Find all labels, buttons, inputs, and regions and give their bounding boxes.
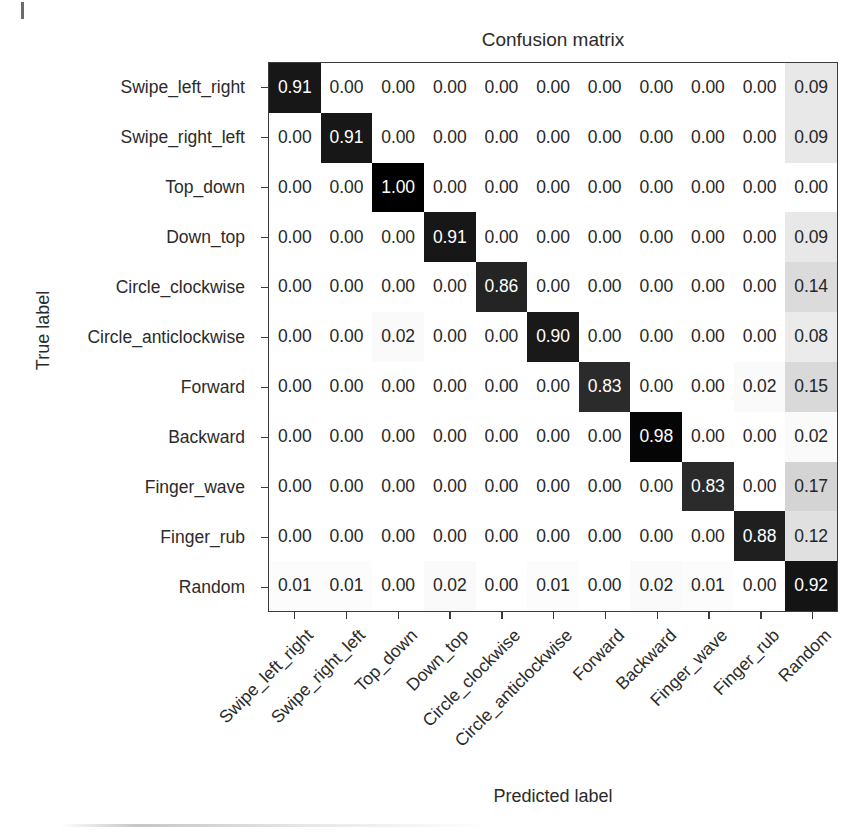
x-tick-mark bbox=[760, 612, 761, 619]
matrix-cell-value: 0.00 bbox=[536, 528, 570, 546]
matrix-cell-value: 0.17 bbox=[794, 478, 828, 496]
matrix-cell-value: 0.00 bbox=[588, 478, 622, 496]
matrix-cell: 0.00 bbox=[476, 511, 528, 561]
matrix-cell: 0.14 bbox=[785, 262, 837, 312]
matrix-cell-value: 0.00 bbox=[588, 428, 622, 446]
matrix-cell: 0.00 bbox=[269, 412, 321, 462]
matrix-cell: 0.00 bbox=[372, 412, 424, 462]
matrix-cell-value: 0.00 bbox=[485, 79, 519, 97]
matrix-cell: 0.00 bbox=[682, 113, 734, 163]
matrix-cell: 0.17 bbox=[785, 462, 837, 512]
matrix-cell: 0.83 bbox=[682, 462, 734, 512]
matrix-cell-value: 0.00 bbox=[330, 378, 364, 396]
matrix-cell: 0.00 bbox=[424, 312, 476, 362]
matrix-cell: 0.00 bbox=[579, 312, 631, 362]
matrix-cell-value: 0.83 bbox=[588, 378, 622, 396]
matrix-cell: 0.02 bbox=[630, 561, 682, 611]
matrix-cell-value: 0.00 bbox=[485, 528, 519, 546]
scan-artifact-smudge bbox=[60, 824, 490, 827]
matrix-cell: 0.91 bbox=[269, 63, 321, 113]
matrix-cell: 0.00 bbox=[269, 362, 321, 412]
matrix-cell-value: 0.00 bbox=[691, 378, 725, 396]
matrix-cell-value: 0.00 bbox=[691, 528, 725, 546]
matrix-cell: 0.00 bbox=[527, 511, 579, 561]
matrix-cell: 0.00 bbox=[682, 262, 734, 312]
y-tick-label: Random bbox=[0, 562, 258, 612]
matrix-cell-value: 0.00 bbox=[485, 129, 519, 147]
matrix-cell-value: 0.15 bbox=[794, 378, 828, 396]
matrix-cell-value: 0.86 bbox=[485, 278, 519, 296]
matrix-cell-value: 1.00 bbox=[381, 179, 415, 197]
matrix-cell: 0.88 bbox=[734, 511, 786, 561]
matrix-plot-area: 0.910.000.000.000.000.000.000.000.000.00… bbox=[268, 62, 838, 612]
matrix-cell: 0.00 bbox=[682, 212, 734, 262]
matrix-cell-value: 0.00 bbox=[536, 79, 570, 97]
matrix-cell-value: 0.00 bbox=[330, 428, 364, 446]
matrix-cell: 0.00 bbox=[734, 63, 786, 113]
y-tick-mark bbox=[261, 387, 268, 388]
matrix-cell: 0.00 bbox=[476, 312, 528, 362]
y-tick-mark bbox=[261, 437, 268, 438]
matrix-cell: 0.02 bbox=[785, 412, 837, 462]
y-tick-mark bbox=[261, 337, 268, 338]
matrix-cell-value: 0.00 bbox=[743, 79, 777, 97]
x-tick-mark bbox=[708, 612, 709, 619]
matrix-cell-value: 0.00 bbox=[743, 577, 777, 595]
matrix-cell-value: 0.00 bbox=[485, 328, 519, 346]
matrix-cell-value: 0.00 bbox=[691, 328, 725, 346]
matrix-cell: 0.00 bbox=[682, 63, 734, 113]
matrix-cell: 0.02 bbox=[734, 362, 786, 412]
matrix-cell-value: 0.00 bbox=[743, 229, 777, 247]
matrix-cell: 0.00 bbox=[734, 412, 786, 462]
matrix-cell: 0.00 bbox=[734, 462, 786, 512]
matrix-cell-value: 0.00 bbox=[381, 79, 415, 97]
matrix-cell: 0.00 bbox=[682, 362, 734, 412]
matrix-cell-value: 0.02 bbox=[743, 378, 777, 396]
matrix-cell: 0.98 bbox=[630, 412, 682, 462]
matrix-cell-value: 0.00 bbox=[639, 378, 673, 396]
matrix-cell-value: 0.00 bbox=[743, 278, 777, 296]
matrix-cell: 0.00 bbox=[476, 462, 528, 512]
matrix-cell-value: 0.00 bbox=[433, 129, 467, 147]
matrix-cell-value: 0.00 bbox=[278, 378, 312, 396]
matrix-cell: 0.00 bbox=[527, 362, 579, 412]
matrix-cell-value: 0.00 bbox=[381, 528, 415, 546]
scan-artifact-mark bbox=[21, 2, 24, 19]
matrix-cell-value: 0.00 bbox=[691, 179, 725, 197]
matrix-cell-value: 0.92 bbox=[794, 577, 828, 595]
matrix-cell-value: 0.00 bbox=[433, 278, 467, 296]
matrix-cell: 0.00 bbox=[630, 262, 682, 312]
matrix-cell: 0.00 bbox=[734, 262, 786, 312]
matrix-cell-value: 0.00 bbox=[278, 179, 312, 197]
matrix-cell: 0.00 bbox=[630, 63, 682, 113]
matrix-cell-value: 0.00 bbox=[639, 79, 673, 97]
matrix-cell-value: 0.00 bbox=[743, 428, 777, 446]
matrix-cell: 0.00 bbox=[579, 511, 631, 561]
matrix-cell-value: 0.00 bbox=[588, 179, 622, 197]
y-tick-label: Finger_rub bbox=[0, 512, 258, 562]
matrix-cell: 0.00 bbox=[269, 212, 321, 262]
matrix-cell: 0.00 bbox=[579, 212, 631, 262]
matrix-cell-value: 0.00 bbox=[588, 577, 622, 595]
matrix-cell-value: 0.00 bbox=[330, 478, 364, 496]
matrix-cell: 0.00 bbox=[734, 113, 786, 163]
matrix-cell-value: 0.12 bbox=[794, 528, 828, 546]
matrix-cell: 0.01 bbox=[269, 561, 321, 611]
y-tick-label: Top_down bbox=[0, 162, 258, 212]
matrix-cell-value: 0.00 bbox=[278, 278, 312, 296]
matrix-cell: 0.00 bbox=[734, 561, 786, 611]
matrix-cell: 0.00 bbox=[424, 462, 476, 512]
x-tick-mark bbox=[657, 612, 658, 619]
matrix-cell-value: 0.00 bbox=[381, 229, 415, 247]
matrix-cell-value: 0.00 bbox=[381, 378, 415, 396]
matrix-cell-value: 0.08 bbox=[794, 328, 828, 346]
matrix-cell-value: 0.00 bbox=[381, 278, 415, 296]
matrix-cell-value: 0.00 bbox=[588, 229, 622, 247]
matrix-cell-value: 0.00 bbox=[743, 328, 777, 346]
matrix-cell: 0.00 bbox=[372, 511, 424, 561]
matrix-cell: 1.00 bbox=[372, 163, 424, 213]
matrix-cell-value: 0.00 bbox=[691, 428, 725, 446]
matrix-cell: 0.00 bbox=[476, 163, 528, 213]
matrix-cell-value: 0.00 bbox=[433, 378, 467, 396]
matrix-cell: 0.00 bbox=[476, 113, 528, 163]
